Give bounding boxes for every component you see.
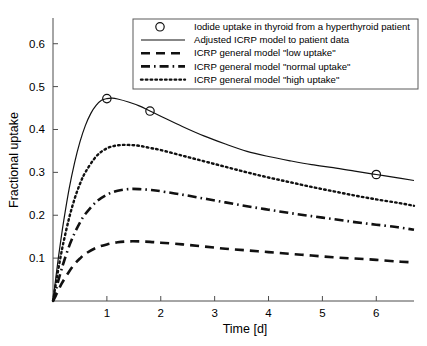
- y-tick-label: 0.1: [29, 252, 45, 264]
- x-axis-title: Time [d]: [223, 322, 268, 336]
- x-tick-label: 6: [373, 307, 379, 319]
- y-axis-ticks: 0.10.20.30.40.50.6: [29, 38, 58, 264]
- x-tick-label: 2: [158, 307, 164, 319]
- y-axis-title: Fractional uptake: [7, 112, 21, 208]
- y-tick-label: 0.2: [29, 209, 45, 221]
- x-tick-label: 3: [211, 307, 217, 319]
- x-axis-ticks: 123456: [104, 296, 380, 319]
- series-curve: [53, 98, 414, 301]
- legend-entry-label: ICRP general model "low uptake": [194, 47, 336, 58]
- uptake-line-chart: 0.10.20.30.40.50.6 123456 Fractional upt…: [0, 0, 427, 346]
- y-tick-label: 0.4: [29, 123, 46, 135]
- chart-legend: Iodide uptake in thyroid from a hyperthy…: [133, 19, 418, 89]
- legend-entry-label: ICRP general model "high uptake": [194, 74, 339, 85]
- x-tick-label: 1: [104, 307, 110, 319]
- data-markers: [103, 94, 381, 178]
- x-tick-label: 4: [265, 307, 272, 319]
- y-tick-label: 0.5: [29, 81, 45, 93]
- legend-entry-label: ICRP general model "normal uptake": [194, 61, 350, 72]
- series-curve: [53, 241, 414, 301]
- y-tick-label: 0.6: [29, 38, 45, 50]
- legend-entry-label: Adjusted ICRP model to patient data: [194, 34, 350, 45]
- x-tick-label: 5: [319, 307, 325, 319]
- chart-figure: 0.10.20.30.40.50.6 123456 Fractional upt…: [0, 0, 427, 346]
- legend-entry-label: Iodide uptake in thyroid from a hyperthy…: [194, 21, 410, 32]
- data-curves: [53, 98, 414, 301]
- y-tick-label: 0.3: [29, 166, 45, 178]
